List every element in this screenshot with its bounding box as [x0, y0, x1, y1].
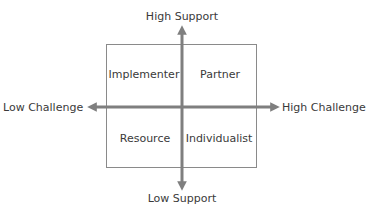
low-support-label: Low Support	[148, 192, 217, 205]
quadrant-partner: Partner	[200, 68, 240, 81]
high-support-label: High Support	[146, 10, 218, 23]
quadrant-implementer: Implementer	[109, 68, 180, 81]
support-challenge-matrix: High Support Low Support Low Challenge H…	[0, 0, 370, 222]
high-challenge-label: High Challenge	[282, 101, 366, 114]
quadrant-individualist: Individualist	[186, 132, 253, 145]
low-challenge-label: Low Challenge	[3, 101, 83, 114]
quadrant-resource: Resource	[120, 132, 170, 145]
